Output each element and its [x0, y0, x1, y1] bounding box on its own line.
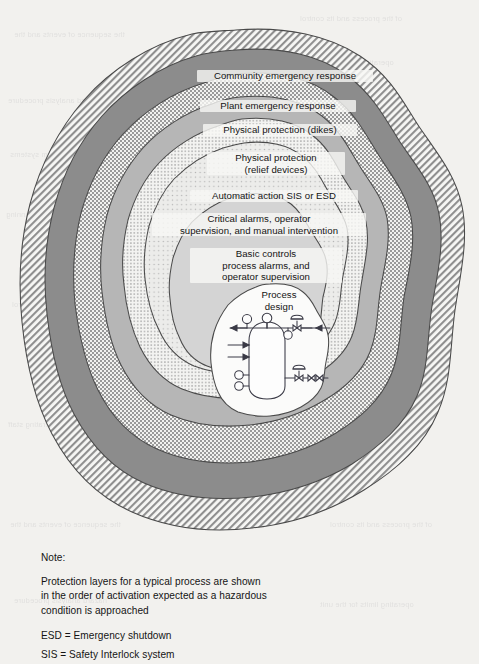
layer-label-physical-protection-relief: Physical protection (relief devices) [207, 152, 345, 175]
layer-label-physical-protection-dikes: Physical protection (dikes) [203, 124, 357, 136]
instrument-bubble-top-center [262, 313, 272, 323]
layer-label-process-design: Process design [249, 289, 309, 312]
layer-label-critical-alarms: Critical alarms, operator supervision, a… [152, 213, 366, 236]
instrument-bubble-top-right [284, 331, 292, 339]
instrument-bubble-top-left [242, 314, 251, 323]
vertical-vessel [249, 322, 285, 399]
figure-notes: Note: Protection layers for a typical pr… [41, 551, 341, 664]
layer-label-community-emergency-response: Community emergency response [197, 70, 373, 82]
notes-body: Protection layers for a typical process … [41, 575, 341, 618]
abbreviation-esd: ESD = Emergency shutdown [41, 629, 341, 643]
layer-label-automatic-action-sis-esd: Automatic action SIS or ESD [190, 190, 358, 202]
layer-label-plant-emergency-response: Plant emergency response [200, 100, 356, 112]
layer-label-basic-controls: Basic controls process alarms, and opera… [190, 248, 342, 283]
abbreviation-sis: SIS = Safety Interlock system [41, 648, 341, 662]
notes-heading: Note: [41, 551, 341, 565]
